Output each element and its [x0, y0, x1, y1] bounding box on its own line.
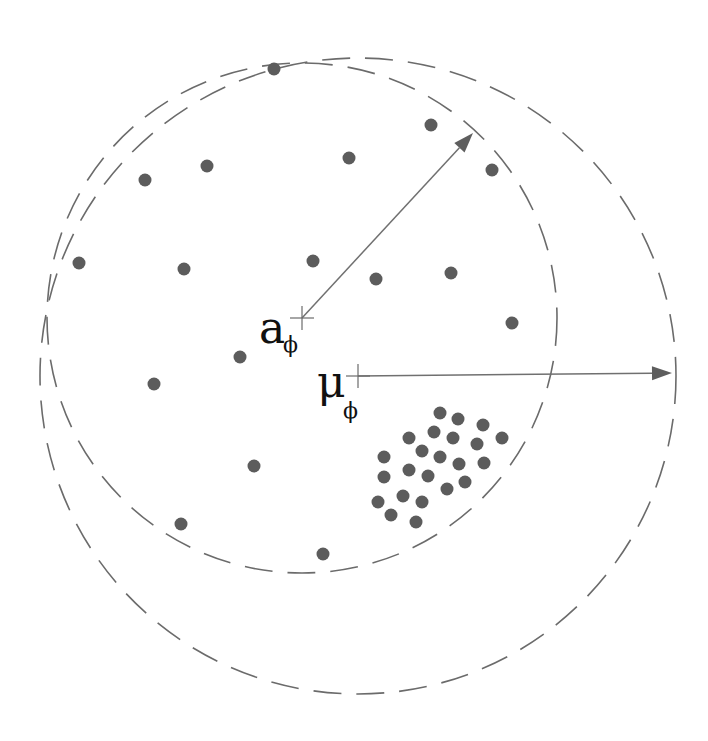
data-point [268, 63, 281, 76]
cluster-point [447, 432, 460, 445]
data-point [425, 119, 438, 132]
cluster-point [428, 426, 441, 439]
data-point [317, 548, 330, 561]
data-point [73, 257, 86, 270]
data-point [307, 255, 320, 268]
cluster-point [372, 496, 385, 509]
diagram-canvas: a ϕ μ ϕ [0, 0, 708, 741]
cluster-point [403, 464, 416, 477]
cluster-point [459, 476, 472, 489]
data-point [445, 267, 458, 280]
arrow-shaft [302, 148, 459, 318]
cluster-point [477, 419, 490, 432]
cluster-point [434, 407, 447, 420]
crosshair-mu-phi [346, 364, 370, 388]
data-point [175, 518, 188, 531]
cluster-point [385, 509, 398, 522]
data-point [178, 263, 191, 276]
label-a-phi: a ϕ [259, 302, 298, 357]
cluster-point [496, 432, 509, 445]
data-point [139, 174, 152, 187]
label-mu-main: μ [317, 356, 346, 407]
data-point [201, 160, 214, 173]
cluster-point [416, 445, 429, 458]
data-point [234, 351, 247, 364]
cluster-point [378, 471, 391, 484]
label-mu-phi: μ ϕ [317, 356, 358, 423]
cluster-point [471, 438, 484, 451]
data-point [148, 378, 161, 391]
cluster-point [378, 451, 391, 464]
arrow-shaft [358, 373, 652, 376]
cluster-point [478, 457, 491, 470]
cluster-point [397, 490, 410, 503]
data-point [506, 317, 519, 330]
label-a-main: a [259, 302, 285, 353]
cluster-point [422, 470, 435, 483]
cluster-point [452, 413, 465, 426]
radius-arrow-mu [358, 366, 672, 380]
radius-arrow-a [302, 133, 473, 318]
cluster-point [434, 451, 447, 464]
arrowhead-icon [652, 366, 672, 380]
label-mu-subscript: ϕ [343, 398, 358, 423]
label-a-subscript: ϕ [283, 332, 298, 357]
cluster-point [453, 458, 466, 471]
cluster-point [441, 483, 454, 496]
data-point [486, 164, 499, 177]
data-point [343, 152, 356, 165]
cluster-point [416, 496, 429, 509]
cluster-point [403, 432, 416, 445]
cluster-point [410, 516, 423, 529]
data-point [248, 460, 261, 473]
data-point [370, 273, 383, 286]
clustered-points [372, 407, 509, 529]
